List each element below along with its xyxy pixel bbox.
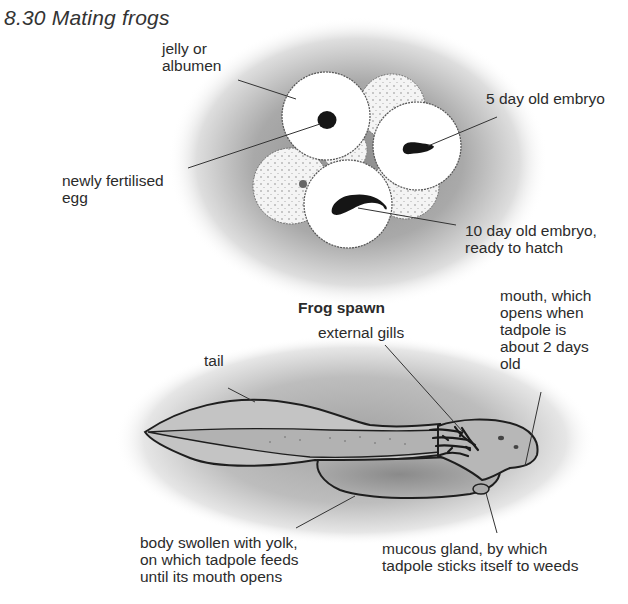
- label-jelly-albumen: jelly or albumen: [162, 40, 221, 74]
- mucous-gland: [473, 484, 489, 494]
- figure-title: 8.30 Mating frogs: [4, 6, 170, 30]
- label-10-day-embryo: 10 day old embryo, ready to hatch: [465, 222, 597, 256]
- label-yolk-body: body swollen with yolk, on which tadpole…: [140, 534, 299, 585]
- label-newly-fertilised-egg: newly fertilised egg: [62, 172, 164, 206]
- fertilised-egg-nucleus: [318, 111, 337, 129]
- frog-spawn-caption: Frog spawn: [298, 299, 385, 316]
- label-mouth: mouth, which opens when tadpole is about…: [500, 287, 591, 372]
- label-5-day-embryo: 5 day old embryo: [486, 90, 605, 107]
- label-tail: tail: [204, 352, 224, 369]
- label-external-gills: external gills: [318, 324, 404, 341]
- label-mucous-gland: mucous gland, by which tadpole sticks it…: [382, 540, 578, 574]
- frog-spawn-illustration: [168, 17, 548, 307]
